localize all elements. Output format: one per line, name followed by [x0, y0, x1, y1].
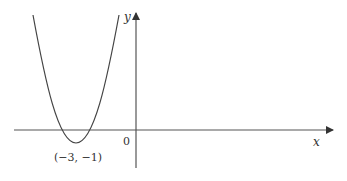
origin-label: 0 [123, 135, 130, 148]
parabola-curve [33, 15, 119, 143]
parabola-graph: y x 0 (−3, −1) [0, 0, 347, 181]
y-axis-label: y [123, 10, 131, 24]
x-axis-label: x [313, 135, 320, 149]
vertex-label: (−3, −1) [54, 151, 102, 164]
